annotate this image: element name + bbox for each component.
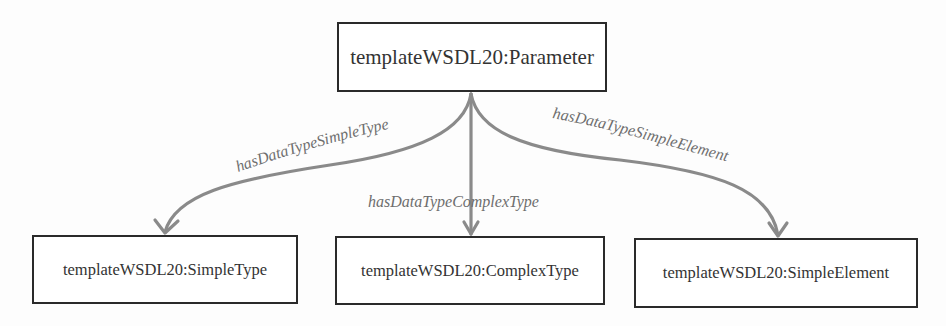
node-label: templateWSDL20:SimpleElement [663,263,889,283]
edge-has-data-type-simple-type [155,94,471,233]
node-simple-type: templateWSDL20:SimpleType [32,235,298,304]
edge-label-simple-type: hasDataTypeSimpleType [233,115,390,175]
edge-curve-simple-element [471,94,778,235]
node-label: templateWSDL20:SimpleType [63,260,267,280]
edge-has-data-type-simple-element [471,94,787,236]
diagram-canvas: hasDataTypeSimpleType hasDataTypeComplex… [0,0,946,326]
node-label: templateWSDL20:ComplexType [361,261,579,281]
node-parameter: templateWSDL20:Parameter [337,22,607,92]
node-complex-type: templateWSDL20:ComplexType [335,236,605,305]
node-simple-element: templateWSDL20:SimpleElement [634,238,918,308]
edge-label-complex-type: hasDataTypeComplexType [368,193,539,211]
edge-has-data-type-complex-type [464,94,478,234]
edge-curve-simple-type [165,94,471,232]
node-label: templateWSDL20:Parameter [350,45,594,70]
